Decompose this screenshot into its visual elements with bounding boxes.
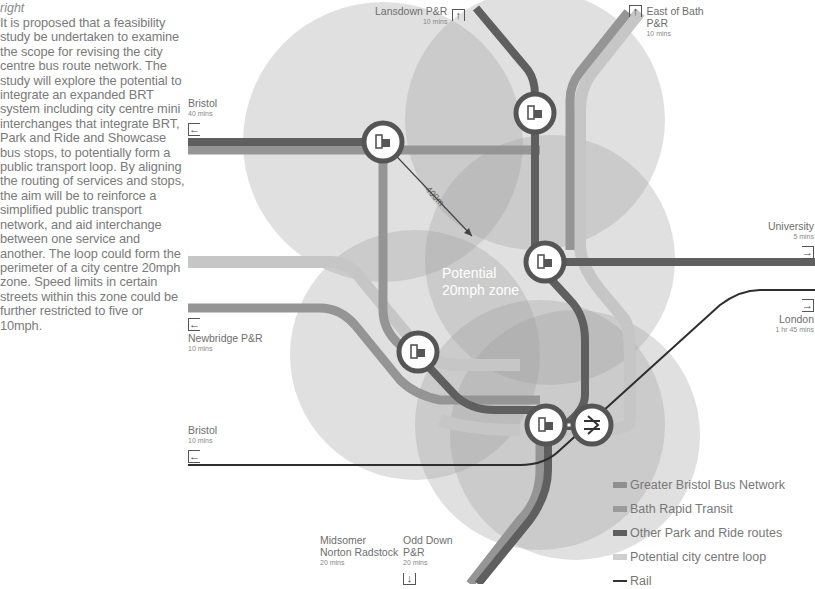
destination-university[interactable]: University 5 mins → <box>768 220 814 260</box>
destination-newbridge[interactable]: ← Newbridge P&R 10 mins <box>188 314 263 354</box>
destination-bristol-10[interactable]: Bristol 10 mins ← <box>188 424 217 464</box>
arrow-left-icon: ← <box>188 450 200 463</box>
destination-midsomer-norton[interactable]: Midsomer Norton Radstock 20 mins <box>320 534 400 568</box>
arrow-right-icon: → <box>802 299 814 312</box>
legend-swatch <box>613 530 627 536</box>
zone-label: Potential 20mph zone <box>442 265 519 299</box>
arrow-left-icon: ← <box>188 123 200 136</box>
arrow-up-icon: ↑ <box>452 9 465 21</box>
legend-swatch <box>613 554 627 560</box>
arrow-down-icon: ↓ <box>403 573 416 585</box>
destination-east-of-bath[interactable]: ↑ East of Bath P&R 10 mins <box>629 5 706 39</box>
stop-bath-east[interactable] <box>526 243 564 281</box>
legend-item-loop: Potential city centre loop <box>613 545 785 569</box>
stop-bath-southwest[interactable] <box>399 333 437 371</box>
legend: Greater Bristol Bus Network Bath Rapid T… <box>613 473 785 589</box>
legend-item-greater-bristol: Greater Bristol Bus Network <box>613 473 785 497</box>
destination-bristol-40[interactable]: Bristol 40 mins ← <box>188 97 217 137</box>
legend-item-brt: Bath Rapid Transit <box>613 497 785 521</box>
arrow-right-icon: → <box>802 246 814 259</box>
stop-bath-north[interactable] <box>516 94 554 132</box>
legend-swatch <box>613 580 627 582</box>
stop-bath-west[interactable] <box>364 123 402 161</box>
arrow-up-icon: ↑ <box>629 5 642 17</box>
legend-item-rail: Rail <box>613 569 785 589</box>
destination-lansdown[interactable]: Lansdown P&R 10 mins ↑ <box>375 5 465 27</box>
arrow-left-icon: ← <box>188 318 200 331</box>
legend-swatch <box>613 482 627 488</box>
destination-london[interactable]: → London 1 hr 45 mins <box>775 295 814 335</box>
legend-swatch <box>613 506 627 512</box>
legend-item-park-and-ride: Other Park and Ride routes <box>613 521 785 545</box>
destination-odd-down[interactable]: Odd Down P&R 20 mins ↓ <box>403 534 463 586</box>
